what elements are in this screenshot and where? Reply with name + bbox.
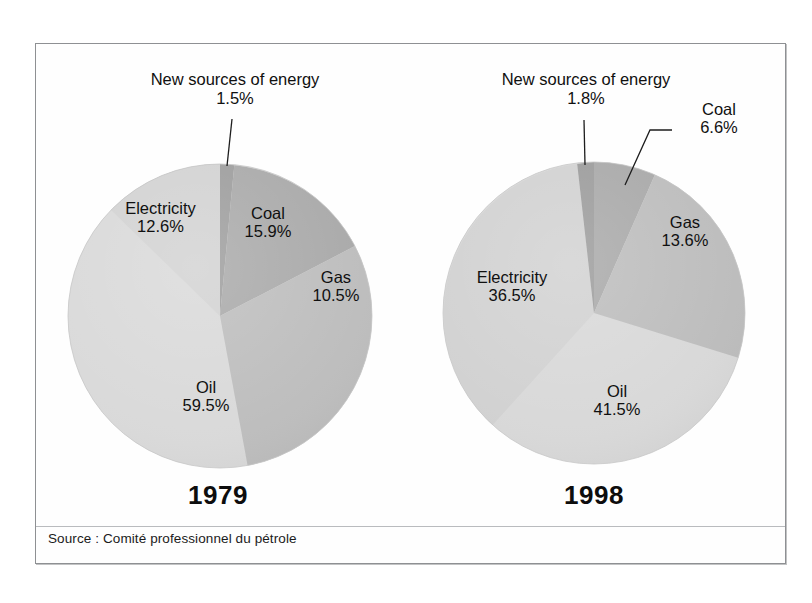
pie-1979-year-label: 1979 xyxy=(188,480,248,511)
pie-1998-coal-name: Coal xyxy=(678,100,760,118)
pie-1998-new-sources-leader-line xyxy=(584,120,585,165)
energy-mix-figure: New sources of energy 1.5% Electricity 1… xyxy=(0,0,812,603)
pie-1979-oil-label: Oil 59.5% xyxy=(167,378,245,415)
pie-1979-gas-name: Gas xyxy=(300,268,372,286)
pie-1998-electricity-label: Electricity 36.5% xyxy=(458,268,566,305)
pie-1979-gas-pct: 10.5% xyxy=(300,286,372,304)
pie-1998-oil-pct: 41.5% xyxy=(578,400,656,418)
pie-1998-electricity-pct: 36.5% xyxy=(458,286,566,304)
pie-1979-coal-name: Coal xyxy=(228,204,308,222)
pie-1979-new-sources-name: New sources of energy xyxy=(151,70,320,88)
pie-1979-oil-pct: 59.5% xyxy=(167,396,245,414)
pie-1979-new-sources-pct: 1.5% xyxy=(216,89,254,107)
pie-1998-oil-name: Oil xyxy=(578,382,656,400)
pie-1998-coal-label: Coal 6.6% xyxy=(678,100,760,137)
pie-1979-electricity-pct: 12.6% xyxy=(108,217,213,235)
pie-1998-new-sources-callout: New sources of energy 1.8% xyxy=(461,70,711,108)
source-note: Source : Comité professionnel du pétrole xyxy=(48,531,297,546)
pie-1979-coal-pct: 15.9% xyxy=(228,222,308,240)
pie-1998-oil-label: Oil 41.5% xyxy=(578,382,656,419)
pie-1979-coal-label: Coal 15.9% xyxy=(228,204,308,241)
pie-1979-oil-name: Oil xyxy=(167,378,245,396)
pie-1998-new-sources-name: New sources of energy xyxy=(502,70,671,88)
pie-1998-year-label: 1998 xyxy=(564,480,624,511)
pie-1998-gas-name: Gas xyxy=(645,213,725,231)
pie-1979-new-sources-callout: New sources of energy 1.5% xyxy=(110,70,360,108)
pie-1998-electricity-name: Electricity xyxy=(458,268,566,286)
pie-1979-new-sources-leader-line xyxy=(227,119,232,166)
pie-1998-gas-label: Gas 13.6% xyxy=(645,213,725,250)
source-divider xyxy=(36,526,785,527)
pie-1998-gas-pct: 13.6% xyxy=(645,231,725,249)
pie-1979-electricity-label: Electricity 12.6% xyxy=(108,199,213,236)
pie-1979-gas-label: Gas 10.5% xyxy=(300,268,372,305)
pie-1979-electricity-name: Electricity xyxy=(108,199,213,217)
pie-1998-new-sources-pct: 1.8% xyxy=(567,89,605,107)
pie-1998-coal-pct: 6.6% xyxy=(678,118,760,136)
